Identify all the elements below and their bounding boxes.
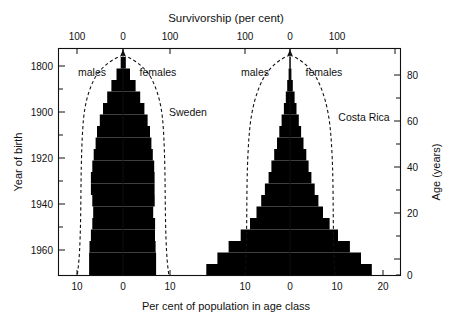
bottom-tick-label-l2: 0 <box>120 281 126 292</box>
annotation-sweden-males: males <box>78 66 106 78</box>
left-tick-label-1920: 1920 <box>31 153 54 164</box>
top-tick-label-l1: 100 <box>69 31 86 42</box>
bottom-tick-label-l1: 10 <box>71 281 83 292</box>
left-tick-label-1900: 1900 <box>31 107 54 118</box>
bottom-tick-label-r3: 10 <box>331 281 343 292</box>
bottom-tick-label-r4: 20 <box>377 281 389 292</box>
population-pyramid-figure: Survivorship (per cent) 100 0 100 100 0 … <box>0 0 452 320</box>
bottom-tick-label-r2: 0 <box>287 281 293 292</box>
sweden-apex-marker <box>121 50 126 56</box>
left-axis-title: Year of birth <box>12 133 24 192</box>
bottom-tick-label-r1: 10 <box>239 281 251 292</box>
left-tick-label-1800: 1800 <box>31 61 54 72</box>
top-tick-label-r2: 0 <box>287 31 293 42</box>
annotation-sweden-females: females <box>140 66 177 78</box>
annotation-costarica-males: males <box>241 66 269 78</box>
right-tick-label-20: 20 <box>407 208 419 219</box>
right-tick-label-40: 40 <box>407 162 419 173</box>
costa-rica-apex-marker <box>288 50 293 56</box>
right-tick-label-0: 0 <box>407 270 413 281</box>
right-tick-label-60: 60 <box>407 116 419 127</box>
annotation-sweden-country: Sweden <box>169 106 207 118</box>
bottom-tick-label-l3: 10 <box>164 281 176 292</box>
figure-svg: Survivorship (per cent) 100 0 100 100 0 … <box>0 0 452 320</box>
top-tick-label-r1: 100 <box>237 31 254 42</box>
top-tick-label-r3: 100 <box>329 31 346 42</box>
top-axis-title: Survivorship (per cent) <box>168 12 284 24</box>
top-ticks <box>77 49 395 55</box>
annotation-costarica-country: Costa Rica <box>338 111 390 123</box>
costa-rica-bars <box>206 57 371 276</box>
annotation-costarica-females: females <box>306 66 343 78</box>
left-ticks <box>59 66 66 250</box>
left-tick-label-1940: 1940 <box>31 199 54 210</box>
plot-content <box>77 49 372 276</box>
panel-sweden <box>77 49 169 276</box>
panel-costa-rica <box>206 49 371 276</box>
left-tick-label-1960: 1960 <box>31 245 54 256</box>
top-tick-label-l3: 100 <box>162 31 179 42</box>
top-tick-label-l2: 0 <box>120 31 126 42</box>
right-axis-title: Age (years) <box>430 144 442 201</box>
bottom-axis-title: Per cent of population in age class <box>142 300 311 312</box>
right-tick-label-80: 80 <box>407 70 419 81</box>
right-ticks <box>394 75 401 275</box>
